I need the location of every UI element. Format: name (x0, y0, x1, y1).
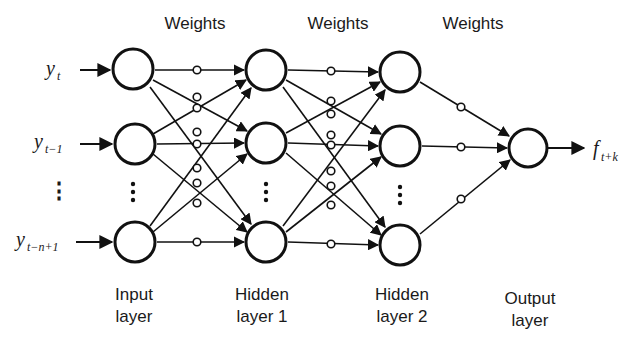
weights-label-2: Weights (307, 14, 368, 33)
output-node (509, 129, 547, 167)
layer-label-hidden1: Hidden layer 1 (235, 285, 289, 326)
svg-text:layer: layer (116, 307, 153, 326)
input-node-2 (115, 124, 155, 164)
svg-text:y: y (44, 57, 55, 80)
output-label: f t+k (593, 137, 618, 164)
neural-network-diagram: Weights Weights Weights y t y t−1 ⋮ y t−… (0, 0, 641, 342)
hidden2-node-n (380, 225, 420, 265)
svg-text:Input: Input (115, 285, 153, 304)
svg-text:t: t (57, 69, 61, 83)
input-arrows (76, 70, 112, 242)
hidden1-node-n (246, 222, 286, 262)
input-label-yt-1: y t−1 (32, 130, 62, 156)
connections-hidden1-hidden2 (283, 70, 385, 245)
layer-label-output: Output layer (504, 289, 555, 330)
layer-label-hidden2: Hidden layer 2 (375, 285, 429, 326)
hidden2-node-1 (380, 52, 420, 92)
input-label-yt-n+1: y t−n+1 (14, 228, 59, 254)
svg-text:layer: layer (512, 311, 549, 330)
input-node-1 (113, 49, 153, 89)
hidden2-node-2 (380, 126, 420, 166)
svg-text:layer 2: layer 2 (376, 307, 427, 326)
weights-label-1: Weights (164, 14, 225, 33)
svg-text:t+k: t+k (601, 150, 618, 164)
svg-text:t−n+1: t−n+1 (27, 240, 59, 254)
svg-text:Output: Output (504, 289, 555, 308)
layer-label-input: Input layer (115, 285, 153, 326)
hidden1-node-1 (246, 50, 286, 90)
weights-label-3: Weights (442, 14, 503, 33)
svg-text:layer 1: layer 1 (236, 307, 287, 326)
svg-text:Hidden: Hidden (235, 285, 289, 304)
svg-text:t−1: t−1 (45, 142, 62, 156)
input-node-n (115, 222, 155, 262)
svg-text:f: f (593, 137, 601, 160)
svg-text:y: y (14, 228, 25, 251)
hidden1-node-2 (246, 123, 286, 163)
input-label-yt: y t (44, 57, 61, 83)
svg-text:y: y (32, 130, 43, 153)
input-ellipsis: ⋮ (48, 178, 70, 203)
svg-text:Hidden: Hidden (375, 285, 429, 304)
